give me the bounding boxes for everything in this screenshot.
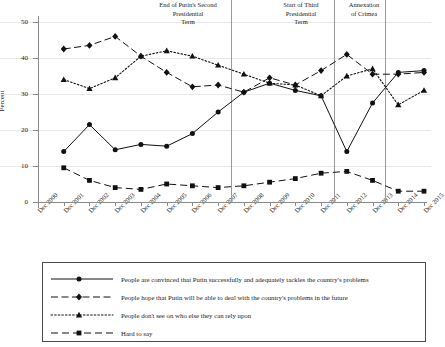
data-point bbox=[293, 176, 298, 181]
data-point bbox=[190, 131, 195, 136]
legend-sample-diamond-icon bbox=[43, 288, 121, 306]
legend-item-4[interactable]: Hard to say bbox=[43, 324, 425, 342]
data-point bbox=[87, 178, 92, 183]
series-line bbox=[64, 51, 424, 105]
data-point bbox=[190, 183, 195, 188]
data-point bbox=[216, 110, 221, 115]
legend-sample-square-icon bbox=[43, 324, 121, 342]
data-point bbox=[139, 187, 144, 192]
legend-label: People hope that Putin will be able to d… bbox=[121, 294, 348, 301]
data-point bbox=[77, 277, 82, 282]
legend-label: People don't see on who else they can re… bbox=[121, 312, 251, 319]
series-4 bbox=[61, 165, 426, 193]
legend-item-2[interactable]: People hope that Putin will be able to d… bbox=[43, 288, 425, 306]
data-point bbox=[76, 294, 82, 301]
data-point bbox=[113, 147, 118, 152]
data-point bbox=[61, 165, 66, 170]
series-line bbox=[64, 36, 424, 92]
data-point bbox=[396, 189, 401, 194]
data-point bbox=[77, 331, 82, 336]
legend: People are convinced that Putin successf… bbox=[42, 262, 426, 342]
data-point bbox=[164, 48, 170, 54]
data-point bbox=[344, 149, 349, 154]
data-point bbox=[164, 144, 169, 149]
data-point bbox=[344, 51, 350, 58]
series-1 bbox=[61, 68, 426, 154]
plot-area: Percent 01020304050 Dec 2000Dec 2001Dec … bbox=[0, 0, 431, 255]
data-point bbox=[138, 142, 143, 147]
data-point bbox=[267, 180, 272, 185]
legend-sample-triangle-icon bbox=[43, 306, 121, 324]
data-point bbox=[369, 66, 375, 72]
data-point bbox=[216, 185, 221, 190]
legend-item-3[interactable]: People don't see on who else they can re… bbox=[43, 306, 425, 324]
data-point bbox=[189, 53, 195, 59]
data-point bbox=[61, 46, 67, 53]
data-point bbox=[112, 33, 118, 40]
series-layer bbox=[0, 0, 431, 255]
series-2 bbox=[61, 33, 427, 96]
data-point bbox=[395, 102, 401, 108]
data-point bbox=[318, 67, 324, 74]
data-point bbox=[164, 69, 170, 76]
data-point bbox=[241, 89, 247, 96]
legend-label: People are convinced that Putin successf… bbox=[121, 276, 369, 283]
data-point bbox=[422, 189, 427, 194]
data-point bbox=[293, 88, 298, 93]
data-point bbox=[61, 149, 66, 154]
data-point bbox=[241, 71, 247, 77]
series-line bbox=[64, 71, 424, 152]
data-point bbox=[61, 76, 67, 82]
data-point bbox=[319, 171, 324, 176]
data-point bbox=[86, 42, 92, 49]
legend-item-1[interactable]: People are convinced that Putin successf… bbox=[43, 270, 425, 288]
data-point bbox=[241, 183, 246, 188]
legend-sample-circle-icon bbox=[43, 270, 121, 288]
data-point bbox=[370, 178, 375, 183]
data-point bbox=[87, 122, 92, 127]
data-point bbox=[189, 83, 195, 90]
data-point bbox=[113, 185, 118, 190]
legend-label: Hard to say bbox=[121, 330, 152, 337]
series-3 bbox=[61, 48, 427, 108]
data-point bbox=[344, 169, 349, 174]
data-point bbox=[215, 82, 221, 89]
data-point bbox=[164, 182, 169, 187]
data-point bbox=[370, 101, 375, 106]
data-point bbox=[421, 87, 427, 93]
